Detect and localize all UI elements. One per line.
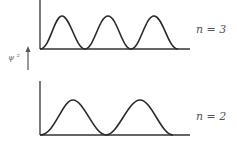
panel-label-n2: n = 2	[196, 110, 226, 123]
psi-squared-curve-n2	[40, 100, 173, 135]
y-axis-label: ψ ²	[8, 53, 20, 62]
panel-label-n3: n = 3	[196, 23, 226, 36]
panel-n3	[40, 0, 190, 49]
panel-n2	[40, 81, 190, 135]
psi-squared-arrow	[26, 46, 31, 70]
psi-squared-curve-n3	[40, 16, 178, 49]
